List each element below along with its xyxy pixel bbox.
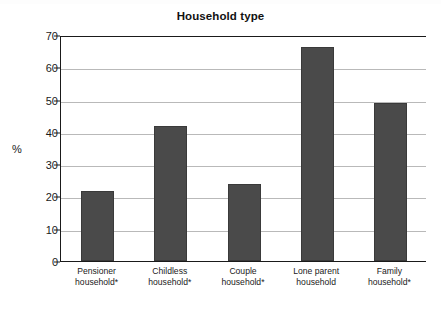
x-axis-tick-label-line: household* (128, 277, 212, 288)
x-axis-tick-label: Pensionerhousehold* (55, 266, 139, 288)
bar-5 (374, 103, 407, 261)
bars-layer (61, 37, 426, 261)
scan-edge (0, 0, 441, 4)
x-axis-tick-label-line: household* (201, 277, 285, 288)
x-axis-tick-label-line: Lone parent (274, 266, 358, 277)
page-title: Household type (0, 10, 441, 22)
x-axis-tick-label: Childlesshousehold* (128, 266, 212, 288)
x-axis-tick-label-line: Family (347, 266, 431, 277)
x-axis-tick-label: Couplehousehold* (201, 266, 285, 288)
bar-chart-figure: Household type % 706050403020100 Pension… (0, 0, 441, 311)
x-axis-tick-label: Familyhousehold* (347, 266, 431, 288)
bar-2 (154, 126, 187, 261)
x-axis-tick-label-line: household* (347, 277, 431, 288)
x-axis-tick-label-line: household (274, 277, 358, 288)
bar-1 (81, 191, 114, 261)
x-axis-tick-label-line: Pensioner (55, 266, 139, 277)
bar-4 (301, 47, 334, 261)
x-axis-tick-label-line: Couple (201, 266, 285, 277)
plot-area (60, 36, 426, 262)
x-axis-tick-label-line: Childless (128, 266, 212, 277)
x-axis-tick-label-line: household* (55, 277, 139, 288)
y-axis-label: % (12, 143, 22, 155)
x-axis-tick-label: Lone parenthousehold (274, 266, 358, 288)
bar-3 (228, 184, 261, 261)
